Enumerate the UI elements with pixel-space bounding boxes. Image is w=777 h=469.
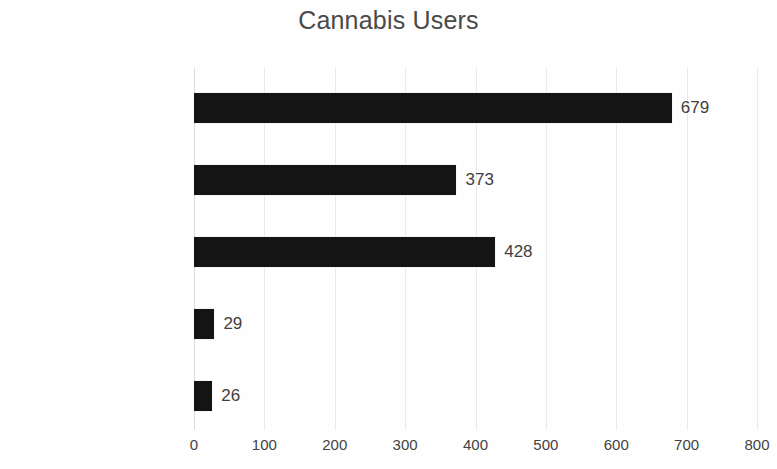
x-tick-label: 300 bbox=[393, 436, 418, 453]
bar-row: Recreational428 bbox=[194, 216, 757, 288]
bar-row: Medically Prescribed679 bbox=[194, 72, 757, 144]
plot-area: Medically Prescribed679Self-Medicating37… bbox=[194, 68, 757, 430]
chart-title: Cannabis Users bbox=[0, 6, 777, 35]
bar-row: Self-Medicating373 bbox=[194, 144, 757, 216]
bar bbox=[194, 381, 212, 411]
x-tick-label: 600 bbox=[604, 436, 629, 453]
bar bbox=[194, 165, 456, 195]
x-tick-label: 200 bbox=[322, 436, 347, 453]
bar-chart: Cannabis Users Medically Prescribed679Se… bbox=[0, 0, 777, 469]
x-tick-label: 700 bbox=[674, 436, 699, 453]
bar-row: Other26 bbox=[194, 360, 757, 432]
bar bbox=[194, 309, 214, 339]
bar-value-label: 29 bbox=[223, 309, 242, 339]
x-tick-label: 500 bbox=[533, 436, 558, 453]
x-axis: 0100200300400500600700800 bbox=[0, 436, 777, 460]
bar-value-label: 428 bbox=[504, 237, 532, 267]
x-tick-label: 100 bbox=[252, 436, 277, 453]
bar-value-label: 373 bbox=[465, 165, 493, 195]
bar bbox=[194, 237, 495, 267]
gridline-800 bbox=[757, 68, 758, 430]
bar-value-label: 26 bbox=[221, 381, 240, 411]
bar-value-label: 679 bbox=[681, 93, 709, 123]
x-tick-label: 400 bbox=[463, 436, 488, 453]
bar-row: Religious29 bbox=[194, 288, 757, 360]
x-tick-label: 0 bbox=[190, 436, 198, 453]
bar bbox=[194, 93, 672, 123]
x-tick-label: 800 bbox=[744, 436, 769, 453]
